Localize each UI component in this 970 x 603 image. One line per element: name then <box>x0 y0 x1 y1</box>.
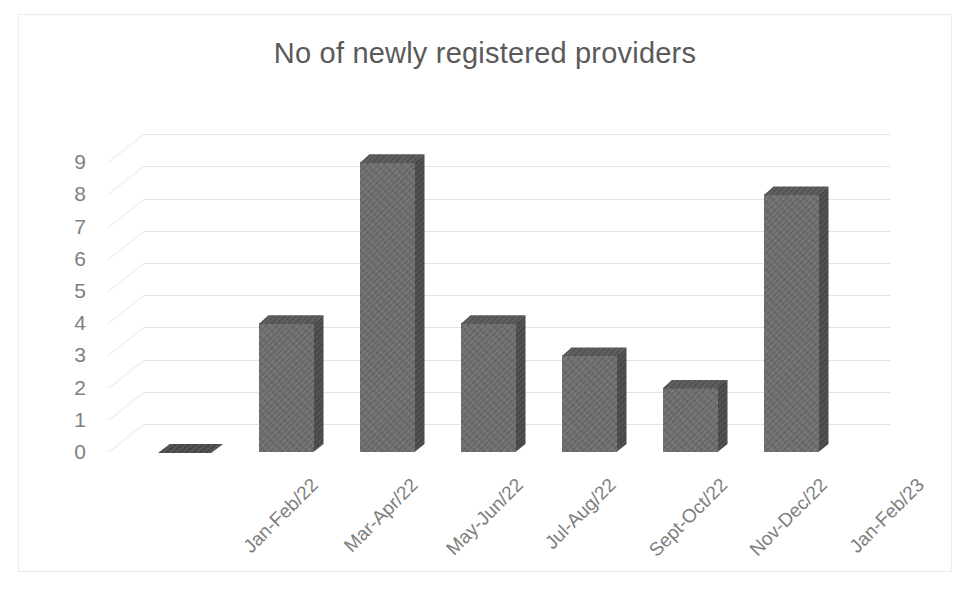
x-axis-category-label: Mar-Apr/22 <box>340 474 423 557</box>
bar-top-face <box>360 154 425 163</box>
bar-side-face <box>718 380 728 452</box>
gridline <box>144 166 890 167</box>
bar-side-face <box>314 315 324 452</box>
bar-jan-feb-23[interactable] <box>764 186 829 452</box>
bar-jan-feb-22[interactable] <box>158 444 223 452</box>
x-axis-category-label: Sept-Oct/22 <box>645 474 732 561</box>
gridline-depth-edge <box>108 295 145 324</box>
bar-side-face <box>819 186 829 452</box>
y-axis-tick-label: 4 <box>46 312 86 333</box>
bar-top-face <box>663 380 728 389</box>
bar-nov-dec-22[interactable] <box>663 380 728 452</box>
bar-top-face <box>764 186 829 195</box>
gridline-depth-edge <box>108 199 145 228</box>
y-axis-tick-label: 5 <box>46 280 86 301</box>
y-axis-tick-label: 9 <box>46 151 86 172</box>
gridline-depth-edge <box>108 134 145 163</box>
gridline-depth-edge <box>108 392 145 421</box>
y-axis-tick-label: 1 <box>46 409 86 430</box>
bar-front-face <box>259 323 314 452</box>
bar-front-face <box>360 162 415 452</box>
bar-side-face <box>415 154 425 452</box>
gridline-depth-edge <box>108 424 145 453</box>
gridline-depth-edge <box>108 263 145 292</box>
bar-front-face <box>562 355 617 452</box>
gridline-depth-edge <box>108 167 145 196</box>
y-axis-tick-label: 6 <box>46 248 86 269</box>
x-axis-category-label: May-Jun/22 <box>442 474 528 560</box>
bar-jul-aug-22[interactable] <box>461 315 526 452</box>
gridline-depth-edge <box>108 360 145 389</box>
x-axis-category-label: Jan-Feb/22 <box>239 474 323 558</box>
x-axis-category-label: Jan-Feb/23 <box>845 474 929 558</box>
gridline <box>144 134 890 135</box>
bar-front-face <box>461 323 516 452</box>
bar-side-face <box>617 347 627 452</box>
bar-top-face <box>562 347 627 356</box>
y-axis-tick-label: 3 <box>46 344 86 365</box>
bar-front-face <box>764 194 819 452</box>
bar-may-jun-22[interactable] <box>360 154 425 452</box>
x-axis-category-label: Jul-Aug/22 <box>541 474 621 554</box>
bar-sept-oct-22[interactable] <box>562 347 627 452</box>
y-axis-tick-label: 7 <box>46 216 86 237</box>
x-axis-category-label: Nov-Dec/22 <box>745 474 831 560</box>
bar-mar-apr-22[interactable] <box>259 315 324 452</box>
bar-top-face <box>158 444 223 453</box>
gridline-depth-edge <box>108 231 145 260</box>
y-axis-tick-label: 2 <box>46 377 86 398</box>
bar-top-face <box>461 315 526 324</box>
bar-front-face <box>663 388 718 452</box>
y-axis-tick-label: 8 <box>46 183 86 204</box>
plot-area: 0123456789Jan-Feb/22Mar-Apr/22May-Jun/22… <box>0 0 970 603</box>
bar-top-face <box>259 315 324 324</box>
bar-side-face <box>516 315 526 452</box>
y-axis-tick-label: 0 <box>46 441 86 462</box>
chart-screenshot: No of newly registered providers 0123456… <box>0 0 970 603</box>
gridline-depth-edge <box>108 328 145 357</box>
